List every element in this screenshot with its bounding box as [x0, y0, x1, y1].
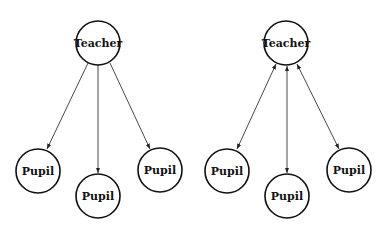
- svg-text:Pupil: Pupil: [271, 190, 303, 203]
- pupil-node: Pupil: [327, 148, 371, 192]
- pupil-node: Pupil: [76, 174, 120, 218]
- pupil-node: Pupil: [138, 148, 182, 192]
- pupil-node: Pupil: [265, 174, 309, 218]
- svg-text:Pupil: Pupil: [144, 164, 176, 177]
- svg-text:Pupil: Pupil: [82, 190, 114, 203]
- teacher-node: Teacher: [262, 21, 311, 65]
- teacher-pupil-diagrams: Teacher Pupil Pupil Pupil Teacher Pupil …: [0, 0, 383, 236]
- svg-text:Teacher: Teacher: [262, 37, 311, 50]
- svg-text:Pupil: Pupil: [211, 165, 243, 178]
- pupil-node: Pupil: [16, 149, 60, 193]
- svg-text:Pupil: Pupil: [333, 164, 365, 177]
- svg-text:Pupil: Pupil: [22, 165, 54, 178]
- one-way-edges: [47, 63, 150, 173]
- pupil-node: Pupil: [205, 149, 249, 193]
- two-way-edges: [237, 64, 339, 173]
- svg-text:Teacher: Teacher: [74, 37, 123, 50]
- teacher-node: Teacher: [74, 21, 123, 65]
